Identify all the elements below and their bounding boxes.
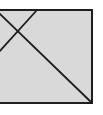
diagram-canvas [0,0,103,115]
